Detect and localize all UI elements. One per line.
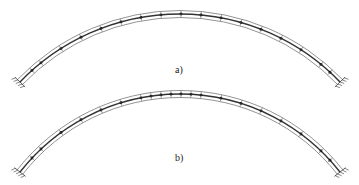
panel-a-label: a) — [175, 64, 183, 75]
node-tick — [201, 12, 202, 19]
beam-panel-b — [11, 90, 349, 177]
fixed-support-icon — [11, 168, 25, 178]
node-tick — [161, 91, 162, 98]
node-tick — [59, 130, 63, 136]
node-tick — [161, 11, 162, 18]
beam-panel-a — [11, 11, 348, 88]
fixed-support-icon — [334, 168, 348, 178]
node-tick — [201, 92, 202, 99]
panel-b-label: b) — [175, 152, 183, 163]
